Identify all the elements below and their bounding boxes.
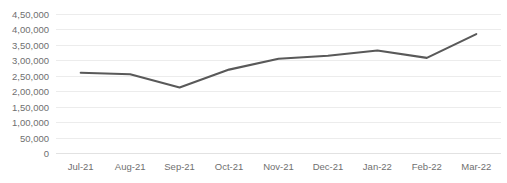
x-axis-tick-label: Mar-22 bbox=[452, 160, 501, 173]
line-chart: 050,0001,00,0001,50,0002,00,0002,50,0003… bbox=[0, 0, 507, 183]
x-axis-tick-label: Aug-21 bbox=[105, 160, 154, 173]
y-axis-tick-label: 3,00,000 bbox=[12, 55, 49, 66]
y-axis-tick-label: 1,00,000 bbox=[12, 117, 49, 128]
gridline bbox=[56, 153, 501, 154]
x-axis-tick-label: Nov-21 bbox=[254, 160, 303, 173]
x-axis-tick-label: Feb-22 bbox=[402, 160, 451, 173]
plot-area bbox=[56, 14, 501, 153]
x-axis-tick-label: Oct-21 bbox=[204, 160, 253, 173]
series-polyline bbox=[81, 34, 477, 87]
y-axis: 050,0001,00,0001,50,0002,00,0002,50,0003… bbox=[0, 9, 54, 153]
y-axis-tick-label: 4,00,000 bbox=[12, 24, 49, 35]
x-axis-tick-label: Dec-21 bbox=[303, 160, 352, 173]
x-axis-tick-label: Sep-21 bbox=[155, 160, 204, 173]
x-axis-tick-label: Jan-22 bbox=[353, 160, 402, 173]
y-axis-tick-label: 4,50,000 bbox=[12, 9, 49, 20]
y-axis-tick-label: 1,50,000 bbox=[12, 102, 49, 113]
y-axis-tick-label: 3,50,000 bbox=[12, 40, 49, 51]
y-axis-tick-label: 2,50,000 bbox=[12, 71, 49, 82]
y-axis-tick-label: 0 bbox=[44, 148, 49, 159]
chart-title bbox=[0, 0, 507, 3]
y-axis-tick-label: 2,00,000 bbox=[12, 86, 49, 97]
x-axis-tick-label: Jul-21 bbox=[56, 160, 105, 173]
x-axis: Jul-21Aug-21Sep-21Oct-21Nov-21Dec-21Jan-… bbox=[56, 160, 501, 176]
y-axis-tick-label: 50,000 bbox=[20, 133, 49, 144]
series-line bbox=[56, 14, 501, 153]
